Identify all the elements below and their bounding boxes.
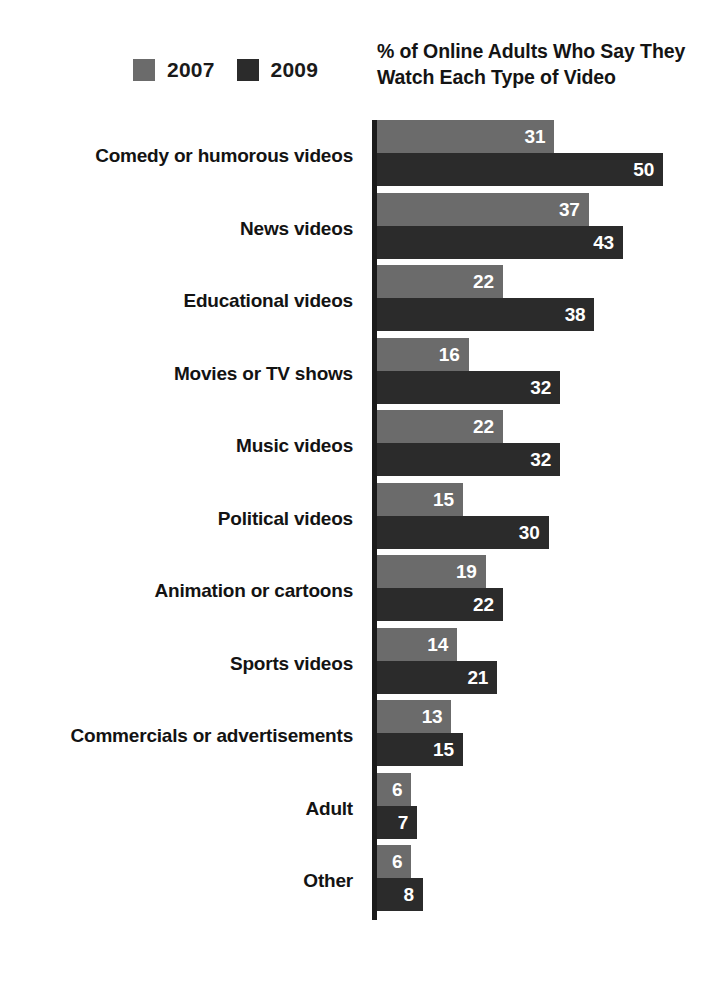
bar-group: Movies or TV shows1632: [0, 338, 721, 410]
bar-value-label: 32: [530, 450, 560, 469]
bar-pair: 1530: [377, 483, 549, 555]
bar-2009: 32: [377, 371, 560, 404]
category-label: Movies or TV shows: [174, 363, 353, 385]
category-label: Political videos: [218, 508, 353, 530]
category-label: Commercials or advertisements: [71, 725, 354, 747]
bar-value-label: 13: [422, 707, 452, 726]
bar-group: Comedy or humorous videos3150: [0, 120, 721, 192]
bar-value-label: 22: [473, 272, 503, 291]
bar-value-label: 21: [467, 668, 497, 687]
bar-2007: 6: [377, 845, 411, 878]
bar-pair: 3743: [377, 193, 623, 265]
bar-group: Animation or cartoons1922: [0, 555, 721, 627]
bar-group: Commercials or advertisements1315: [0, 700, 721, 772]
bar-2007: 37: [377, 193, 589, 226]
bar-2007: 31: [377, 120, 554, 153]
bar-pair: 1315: [377, 700, 463, 772]
bar-pair: 1421: [377, 628, 497, 700]
bar-pair: 2238: [377, 265, 594, 337]
bar-value-label: 43: [593, 233, 623, 252]
bar-2007: 16: [377, 338, 469, 371]
bar-2009: 43: [377, 226, 623, 259]
bar-2007: 22: [377, 410, 503, 443]
bar-2007: 19: [377, 555, 486, 588]
category-label: Adult: [305, 798, 353, 820]
category-label: Sports videos: [230, 653, 353, 675]
bar-value-label: 31: [525, 127, 555, 146]
bar-value-label: 6: [392, 780, 411, 799]
bar-2007: 14: [377, 628, 457, 661]
category-label: Educational videos: [183, 290, 353, 312]
bar-value-label: 16: [439, 345, 469, 364]
bar-value-label: 19: [456, 562, 486, 581]
bar-value-label: 22: [473, 595, 503, 614]
bar-value-label: 50: [633, 160, 663, 179]
bar-2007: 6: [377, 773, 411, 806]
bar-2009: 15: [377, 733, 463, 766]
category-label: Music videos: [236, 435, 353, 457]
bar-value-label: 8: [403, 885, 422, 904]
bar-pair: 67: [377, 773, 417, 845]
bar-2009: 32: [377, 443, 560, 476]
bar-2007: 13: [377, 700, 451, 733]
bar-value-label: 30: [519, 523, 549, 542]
bar-group: Adult67: [0, 773, 721, 845]
bar-group: Music videos2232: [0, 410, 721, 482]
bar-value-label: 15: [433, 740, 463, 759]
bar-2009: 30: [377, 516, 549, 549]
bar-group: Political videos1530: [0, 483, 721, 555]
bar-2009: 38: [377, 298, 594, 331]
bar-value-label: 14: [427, 635, 457, 654]
bar-value-label: 38: [565, 305, 595, 324]
bar-2009: 50: [377, 153, 663, 186]
bar-pair: 2232: [377, 410, 560, 482]
bar-value-label: 32: [530, 378, 560, 397]
bar-2009: 21: [377, 661, 497, 694]
chart-page: 2007 2009 % of Online Adults Who Say The…: [0, 0, 721, 982]
category-label: Animation or cartoons: [155, 580, 353, 602]
bar-value-label: 37: [559, 200, 589, 219]
bar-pair: 1922: [377, 555, 503, 627]
bar-2007: 15: [377, 483, 463, 516]
bar-value-label: 6: [392, 852, 411, 871]
bar-2009: 7: [377, 806, 417, 839]
bar-group: Other68: [0, 845, 721, 917]
bar-group: Sports videos1421: [0, 628, 721, 700]
bar-2007: 22: [377, 265, 503, 298]
bar-pair: 1632: [377, 338, 560, 410]
bar-2009: 22: [377, 588, 503, 621]
bar-value-label: 7: [398, 813, 417, 832]
plot-area: Comedy or humorous videos3150News videos…: [0, 0, 721, 982]
category-label: Comedy or humorous videos: [95, 145, 353, 167]
bar-pair: 68: [377, 845, 423, 917]
category-label: News videos: [240, 218, 353, 240]
bar-value-label: 15: [433, 490, 463, 509]
category-label: Other: [303, 870, 353, 892]
bar-group: News videos3743: [0, 193, 721, 265]
bar-value-label: 22: [473, 417, 503, 436]
bar-group: Educational videos2238: [0, 265, 721, 337]
bar-pair: 3150: [377, 120, 663, 192]
bar-2009: 8: [377, 878, 423, 911]
